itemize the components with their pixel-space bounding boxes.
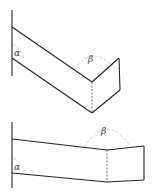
plate-bottom-edge bbox=[12, 58, 92, 113]
diagram-canvas: α β α β bbox=[0, 0, 152, 194]
beta-label: β bbox=[100, 126, 106, 136]
plate-top-edge bbox=[12, 139, 107, 150]
wing-top-edge bbox=[92, 58, 119, 82]
plate-bottom-edge bbox=[12, 173, 107, 182]
figure-top: α β bbox=[12, 10, 120, 113]
wing-bottom-edge bbox=[107, 180, 144, 182]
beta-label: β bbox=[87, 54, 93, 64]
alpha-label: α bbox=[14, 162, 20, 172]
wing-top-edge bbox=[107, 146, 144, 150]
alpha-label: α bbox=[14, 48, 20, 58]
beta-arc bbox=[84, 129, 130, 147]
wing-bottom-edge bbox=[92, 90, 120, 113]
figure-bottom: α β bbox=[12, 122, 144, 188]
wing-end-edge bbox=[119, 58, 120, 90]
plate-top-edge bbox=[12, 27, 92, 82]
